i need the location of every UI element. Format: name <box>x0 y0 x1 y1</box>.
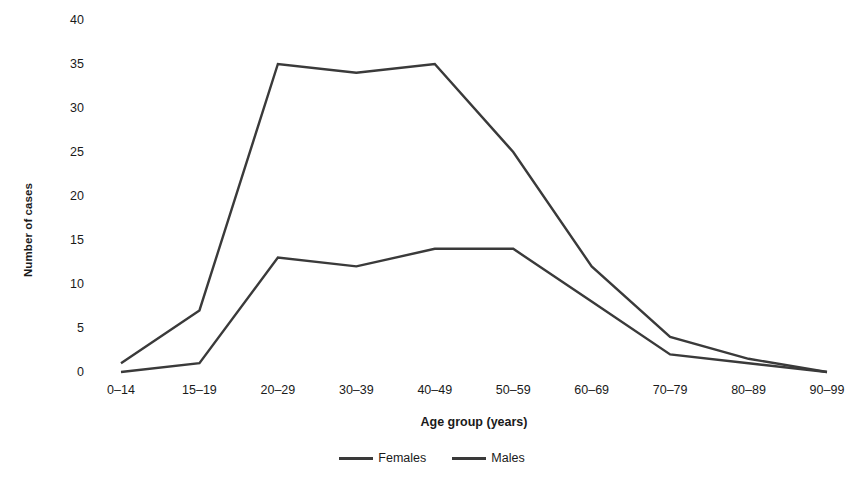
y-tick-label: 15 <box>44 234 84 247</box>
y-tick-label: 20 <box>44 190 84 203</box>
legend-item-males[interactable]: Males <box>452 452 524 465</box>
y-tick-label: 5 <box>44 322 84 335</box>
x-tick-label: 70–79 <box>653 384 688 397</box>
y-tick-label: 40 <box>44 14 84 27</box>
legend-item-females[interactable]: Females <box>339 452 426 465</box>
line-swatch-males <box>452 457 486 460</box>
x-tick-label: 60–69 <box>574 384 609 397</box>
x-tick-label: 0–14 <box>107 384 135 397</box>
x-axis-title: Age group (years) <box>95 415 853 429</box>
legend-label: Males <box>491 452 524 465</box>
plot-area <box>95 20 853 372</box>
series-line-males <box>121 249 827 372</box>
x-tick-label: 20–29 <box>260 384 295 397</box>
x-axis-ticks: 0–1415–1920–2930–3940–4950–5960–6970–798… <box>95 384 853 406</box>
x-tick-label: 30–39 <box>339 384 374 397</box>
x-tick-label: 40–49 <box>417 384 452 397</box>
x-tick-label: 80–89 <box>731 384 766 397</box>
x-tick-label: 15–19 <box>182 384 217 397</box>
line-swatch-females <box>339 457 373 460</box>
y-tick-label: 30 <box>44 102 84 115</box>
legend-label: Females <box>378 452 426 465</box>
y-tick-label: 0 <box>44 366 84 379</box>
x-tick-label: 90–99 <box>810 384 845 397</box>
y-tick-label: 25 <box>44 146 84 159</box>
y-axis-title-label: Number of cases <box>22 150 34 310</box>
y-tick-label: 10 <box>44 278 84 291</box>
x-axis-title-label: Age group (years) <box>421 415 528 429</box>
y-tick-label: 35 <box>44 58 84 71</box>
chart-legend: FemalesMales <box>0 452 864 465</box>
y-axis-ticks: 0510152025303540 <box>38 20 84 372</box>
series-group <box>121 64 827 372</box>
x-tick-label: 50–59 <box>496 384 531 397</box>
y-axis-title: Number of cases <box>22 0 34 150</box>
line-chart: Number of cases 0510152025303540 0–1415–… <box>0 0 864 489</box>
plot-svg <box>95 20 853 372</box>
